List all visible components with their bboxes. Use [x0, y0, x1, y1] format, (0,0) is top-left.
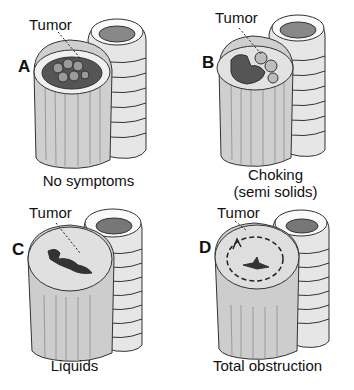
panel-a: Tumor A No symptoms	[0, 0, 177, 195]
tumor-label-a: Tumor	[29, 17, 72, 32]
caption-d: Total obstruction	[179, 358, 354, 375]
panel-d: Tumor D Total obstruction	[177, 195, 354, 390]
caption-a-line-1: No symptoms	[0, 173, 177, 190]
caption-a: No symptoms	[0, 173, 177, 190]
esophagus-trachea-illustration-a	[0, 0, 177, 195]
panel-letter-a: A	[18, 58, 30, 75]
panel-letter-d: D	[199, 239, 211, 256]
tumor-label-b: Tumor	[215, 10, 258, 25]
panel-c: Tumor C Liquids	[0, 195, 177, 390]
caption-c-line-1: Liquids	[0, 358, 163, 375]
caption-d-line-1: Total obstruction	[179, 358, 354, 375]
caption-c: Liquids	[0, 358, 163, 375]
tumor-label-c: Tumor	[29, 205, 72, 220]
panel-letter-c: C	[12, 241, 24, 258]
tumor-label-d: Tumor	[217, 205, 260, 220]
panel-letter-b: B	[202, 54, 214, 71]
panel-b: Tumor B Choking (semi solids)	[177, 0, 354, 195]
caption-b-line-1: Choking	[187, 167, 354, 184]
